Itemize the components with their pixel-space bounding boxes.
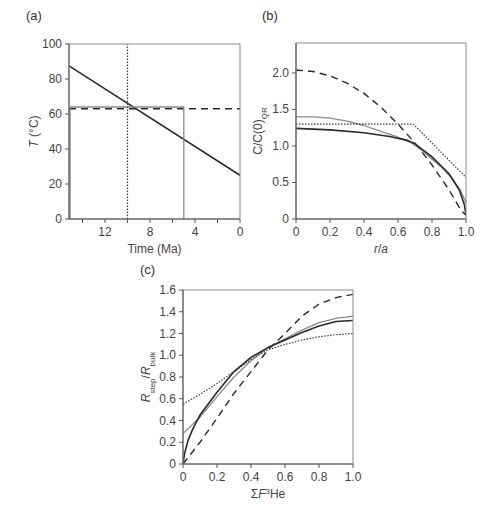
y-tick-label: 0.8 (159, 370, 176, 384)
series-group (69, 44, 240, 219)
y-tick-label: 0.2 (159, 435, 176, 449)
y-tick-label: 0.6 (159, 392, 176, 406)
y-tick-label: 0.4 (159, 414, 176, 428)
series-group (296, 70, 466, 215)
x-tick-label: 0.2 (209, 470, 226, 484)
x-tick-label: 0.8 (424, 225, 441, 239)
series-gray-solid (183, 316, 353, 434)
chart-panel-a: 12840020406080100(a)Time (Ma)T (°C) (26, 8, 244, 256)
x-tick-label: 4 (192, 225, 199, 239)
y-tick-label: 20 (49, 177, 63, 191)
y-axis-label: Rstep/Rbulk (139, 351, 157, 402)
series-dotted (183, 334, 353, 405)
y-tick-label: 2.0 (272, 66, 289, 80)
y-axis-label: C/C(0)QR (251, 107, 269, 155)
series-dashed (296, 70, 466, 215)
x-axis-label: Time (Ma) (127, 242, 181, 256)
y-tick-label: 1.4 (159, 305, 176, 319)
y-tick-label: 0.5 (272, 175, 289, 189)
plot-frame (183, 290, 353, 464)
y-tick-label: 1.0 (272, 139, 289, 153)
y-tick-label: 1.2 (159, 327, 176, 341)
x-tick-label: 0.4 (356, 225, 373, 239)
y-axis-label: T (°C) (27, 115, 41, 147)
y-tick-label: 60 (49, 107, 63, 121)
x-tick-label: 0 (237, 225, 244, 239)
x-axis-label: ΣF3He (251, 487, 286, 502)
x-tick-label: 0.4 (243, 470, 260, 484)
series-step-gray- (70, 107, 184, 219)
x-tick-label: 0.6 (277, 470, 294, 484)
y-tick-label: 100 (42, 37, 62, 51)
x-tick-label: 0 (293, 225, 300, 239)
x-tick-label: 1.0 (458, 225, 475, 239)
series-group (183, 294, 353, 464)
x-tick-label: 8 (147, 225, 154, 239)
y-tick-label: 1.0 (159, 348, 176, 362)
panel-label: (a) (26, 8, 42, 23)
x-tick-label: 0.6 (390, 225, 407, 239)
x-axis-label: r/a (374, 242, 388, 256)
plot-frame (69, 44, 240, 219)
series-dotted (296, 124, 466, 177)
y-tick-label: 80 (49, 72, 63, 86)
series-black-solid (296, 128, 466, 215)
panel-label: (b) (262, 8, 278, 23)
figure: 12840020406080100(a)Time (Ma)T (°C)00.20… (0, 0, 494, 518)
x-tick-label: 0.8 (311, 470, 328, 484)
y-tick-label: 40 (49, 142, 63, 156)
y-tick-label: 0 (169, 457, 176, 471)
y-tick-label: 1.5 (272, 102, 289, 116)
x-tick-label: 1.0 (345, 470, 362, 484)
chart-panel-b: 00.20.40.60.81.000.51.01.52.0(b)r/aC/C(0… (251, 8, 475, 256)
chart-panel-c: 00.20.40.60.81.000.20.40.60.81.01.21.41.… (139, 262, 362, 501)
x-tick-label: 0.2 (322, 225, 339, 239)
panel-label: (c) (140, 262, 155, 277)
y-tick-label: 0 (282, 212, 289, 226)
series-linear-cooling (69, 66, 240, 175)
series-black-solid (183, 321, 353, 465)
y-tick-label: 0 (55, 212, 62, 226)
x-tick-label: 12 (98, 225, 112, 239)
y-tick-label: 1.6 (159, 283, 176, 297)
x-tick-label: 0 (180, 470, 187, 484)
